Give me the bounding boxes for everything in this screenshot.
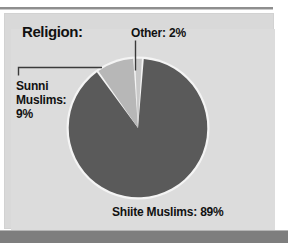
slice-label-shiite-muslims: Shiite Muslims: 89%: [112, 206, 224, 219]
slice-label-other: Other: 2%: [131, 27, 186, 40]
chart-title: Religion:: [22, 24, 83, 40]
figure-root: Religion: Sunni Muslims: 9% Other: 2% Sh…: [0, 0, 288, 245]
slice-label-sunni-muslims: Sunni Muslims: 9%: [16, 79, 66, 121]
sunni-leader-line: [19, 68, 103, 76]
bottom-bar: [0, 231, 288, 243]
